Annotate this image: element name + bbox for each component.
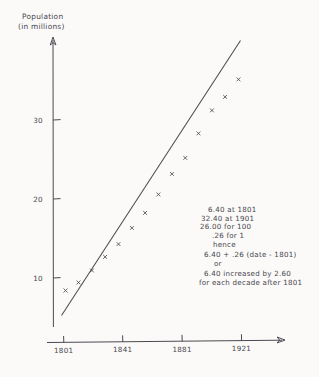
y-axis [50, 37, 56, 327]
y-tick-label-20: 20 [33, 195, 43, 204]
x-tick-label-1881: 1881 [172, 345, 191, 354]
y-tick-label-10: 10 [33, 274, 43, 283]
data-point [183, 156, 187, 160]
data-point [130, 226, 134, 230]
annotation-line-3: .26 for 1 [212, 231, 244, 240]
data-point [157, 193, 161, 197]
data-point [223, 95, 227, 99]
annotation-line-4: hence [213, 240, 236, 249]
population-growth-chart: Population (in millions) 30 20 10 6 [0, 0, 319, 377]
data-point [237, 78, 241, 82]
annotation-line-5: 6.40 + .26 (date - 1801) [204, 250, 296, 259]
data-point [77, 281, 81, 285]
x-tick-label-1801: 1801 [54, 346, 73, 355]
data-point [210, 109, 214, 113]
data-point [197, 132, 201, 136]
data-point [143, 211, 147, 215]
y-axis-ticks [53, 120, 60, 278]
x-tick-label-1921: 1921 [232, 344, 251, 353]
x-axis [47, 337, 285, 343]
data-point [117, 242, 121, 246]
data-point [64, 289, 68, 293]
annotation-line-6: or [214, 259, 222, 268]
y-tick-label-30: 30 [33, 116, 43, 125]
annotation-line-2: 26.00 for 100 [200, 222, 252, 231]
y-axis-label-line1: Population [22, 12, 63, 21]
annotation-line-7: 6.40 increased by 2.60 [204, 269, 291, 278]
data-point [170, 172, 174, 176]
annotation-line-8: for each decade after 1801 [199, 278, 302, 287]
y-axis-label-line2: (in millions) [18, 22, 65, 31]
annotation-block: 6.40 at 1801 32.40 at 1901 26.00 for 100… [199, 205, 302, 287]
data-point [103, 255, 107, 259]
x-tick-label-1841: 1841 [113, 345, 132, 354]
